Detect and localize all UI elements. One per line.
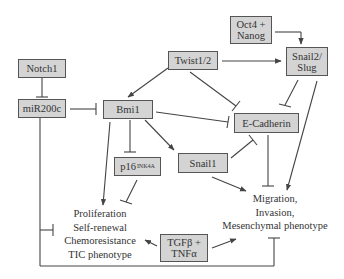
node-tgfb-line2: TNFα <box>171 248 196 259</box>
node-oct4-nanog-line2: Nanog <box>237 30 265 41</box>
edge-mir200c-inhibits-bmi1 <box>70 103 96 115</box>
node-p16-label: p16 <box>120 161 136 172</box>
outcome-stemness-line-1: Proliferation <box>48 207 152 221</box>
node-snail1: Snail1 <box>178 153 228 173</box>
outcome-emt-line-2: Invasion, <box>216 206 334 220</box>
node-ecadherin-label: E-Cadherin <box>242 118 290 129</box>
node-bmi1: Bmi1 <box>103 100 153 119</box>
node-ecadherin: E-Cadherin <box>234 113 299 133</box>
node-snail1-label: Snail1 <box>190 158 217 169</box>
node-twist-label: Twist1/2 <box>175 55 212 66</box>
outcome-emt-line-1: Migration, <box>216 192 334 206</box>
node-notch1: Notch1 <box>18 59 66 78</box>
pathway-diagram: Notch1 miR200c Bmi1 Twist1/2 Oct4 + Nano… <box>0 0 344 279</box>
outcome-emt-line-3: Mesenchymal phenotype <box>216 219 334 233</box>
edge-snail1-inhibits-ecadherin <box>231 135 257 158</box>
edge-tgfb-activates-emt <box>212 239 236 248</box>
edge-bmi1-inhibits-p16 <box>124 120 136 152</box>
edge-snail2-inhibits-ecadherin <box>279 80 298 107</box>
node-snail2-line2: Slug <box>297 62 316 73</box>
node-oct4-nanog-line1: Oct4 + <box>237 19 266 30</box>
edge-bmi1-activates-snail1 <box>145 120 174 150</box>
node-snail2-line1: Snail2/ <box>292 51 322 62</box>
node-bmi1-label: Bmi1 <box>116 104 139 115</box>
edge-bmi1-inhibits-ecadherin <box>156 112 229 128</box>
node-p16-superscript: INK4A <box>137 161 155 172</box>
outcome-stemness-line-3: Chemoresistance <box>48 234 152 248</box>
edge-ecadherin-inhibits-emt <box>262 135 274 186</box>
edge-bmi1-activates-stemness <box>103 122 110 205</box>
node-oct4-nanog: Oct4 + Nanog <box>230 16 272 44</box>
edge-notch1-inhibits-mir200c <box>36 77 48 97</box>
edge-twist-activates-bmi1 <box>128 68 168 97</box>
node-mir200c: miR200c <box>18 99 66 118</box>
node-twist: Twist1/2 <box>168 51 218 70</box>
edge-snail2-activates-emt <box>287 81 317 190</box>
outcome-stemness-line-2: Self-renewal <box>48 221 152 235</box>
outcome-emt: Migration, Invasion, Mesenchymal phenoty… <box>216 192 334 233</box>
edge-p16-inhibits-stemness <box>120 180 137 204</box>
edge-twist-inhibits-ecadherin <box>190 72 240 111</box>
node-tgfb-line1: TGFβ + <box>167 237 201 248</box>
node-p16: p16INK4A <box>114 157 161 176</box>
node-mir200c-label: miR200c <box>23 103 62 114</box>
node-tgfb-tnfa: TGFβ + TNFα <box>160 234 208 262</box>
node-notch1-label: Notch1 <box>27 63 58 74</box>
edge-oct4-activates-snail2 <box>275 32 301 44</box>
edge-snail1-activates-emt <box>212 177 246 191</box>
outcome-stemness-line-4: TIC phenotype <box>48 248 152 262</box>
node-snail2-slug: Snail2/ Slug <box>286 47 328 76</box>
outcome-stemness: Proliferation Self-renewal Chemoresistan… <box>48 207 152 261</box>
